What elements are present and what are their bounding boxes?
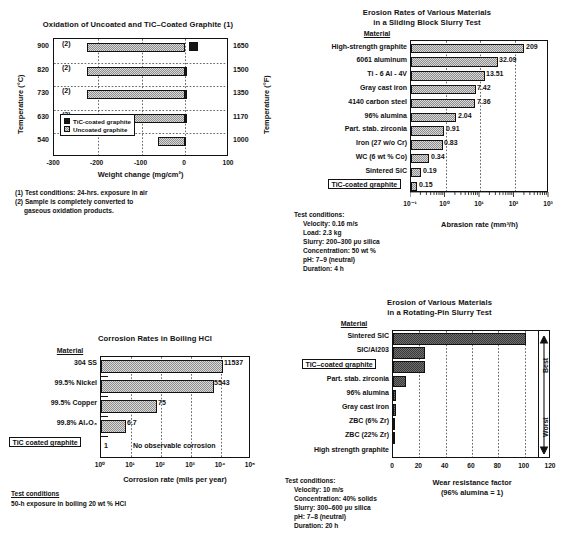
oxidation-footnote-2b: gaseous oxidation products. bbox=[24, 206, 114, 215]
sliding-category-label: 96% alumina bbox=[287, 112, 407, 119]
oxidation-marker-coated bbox=[184, 67, 187, 76]
rotating-category-label: ZBC (22% Zr) bbox=[282, 431, 389, 438]
rotating-bar bbox=[393, 376, 406, 388]
rotating-bar bbox=[393, 390, 396, 402]
sliding-condition-item: Slurry: 200–300 μυ silica bbox=[303, 237, 380, 246]
rotating-category-label: Gray cast iron bbox=[282, 403, 389, 410]
sliding-bar bbox=[411, 71, 485, 81]
rotating-plot-frame: Best Worst bbox=[392, 330, 550, 458]
sliding-condition-item: Load: 2.3 kg bbox=[303, 228, 341, 237]
corrosion-category-label-highlighted: TiC coated graphite bbox=[9, 437, 81, 447]
sliding-condition-item: Velocity: 0.16 m/s bbox=[303, 219, 358, 228]
legend-swatch-coated-icon bbox=[64, 118, 70, 124]
oxidation-title: Oxidation of Uncoated and TiC–Coated Gra… bbox=[8, 20, 268, 29]
oxidation-row-note: (2) bbox=[62, 40, 71, 47]
oxidation-footnote-1: (1) Test conditions: 24-hrs. exposure in… bbox=[15, 188, 148, 197]
legend-swatch-uncoated-icon bbox=[64, 126, 70, 132]
corrosion-bar bbox=[101, 420, 126, 433]
corrosion-xtick: 10³ bbox=[175, 461, 205, 468]
sliding-bar bbox=[411, 126, 444, 136]
corrosion-value-label: 5543 bbox=[214, 379, 230, 386]
corrosion-row-tick bbox=[101, 416, 108, 417]
legend-label-uncoated: Uncoated graphite bbox=[73, 126, 127, 133]
rotating-gridline-x bbox=[525, 331, 526, 457]
oxidation-xtick: -100 bbox=[126, 159, 156, 166]
sliding-condition-item: pH: 7–9 (neutral) bbox=[303, 255, 355, 264]
oxidation-gridline-y bbox=[54, 110, 227, 111]
corrosion-row-tick bbox=[101, 436, 108, 437]
oxidation-bar-uncoated bbox=[87, 90, 185, 99]
corrosion-xtick: 10⁴ bbox=[205, 461, 235, 468]
rotating-x-axis-label-line1: Wear resistance factor bbox=[402, 478, 542, 487]
oxidation-y-axis-right-label: Temperature (°F) bbox=[262, 75, 271, 134]
rotating-condition-item: Concentration: 40% solids bbox=[294, 494, 377, 503]
rotating-condition-item: Slurry: 300–600 μυ silica bbox=[294, 503, 371, 512]
corrosion-row-tick bbox=[101, 396, 108, 397]
oxidation-legend: TiC-coated graphite Uncoated graphite bbox=[60, 114, 135, 136]
rotating-column-header: Material bbox=[324, 320, 384, 327]
sliding-value-label: 7.42 bbox=[477, 84, 491, 91]
sliding-category-label: 4140 carbon steel bbox=[287, 98, 407, 105]
sliding-xtick: 10⁻¹ bbox=[395, 200, 425, 208]
sliding-bar bbox=[411, 154, 429, 164]
sliding-conditions-title: Test conditions: bbox=[294, 210, 344, 219]
oxidation-bar-uncoated bbox=[87, 67, 185, 76]
rotating-category-label: ZBC (6% Zr) bbox=[282, 417, 389, 424]
oxidation-marker-coated bbox=[189, 42, 198, 51]
sliding-category-label: WC (6 wt % Co) bbox=[287, 153, 407, 160]
rotating-category-label: 96% alumina bbox=[282, 389, 389, 396]
oxidation-xtick: -300 bbox=[38, 159, 68, 166]
corrosion-zero-value-label: 1 bbox=[104, 442, 108, 449]
chart-rotating-pin: Erosion of Various Materials in a Rotati… bbox=[282, 290, 563, 542]
rotating-category-label: SIC/Al203 bbox=[282, 346, 389, 353]
corrosion-category-label: 99.5% Copper bbox=[10, 399, 97, 406]
rotating-category-label: High strength graphite bbox=[282, 446, 389, 453]
corrosion-value-label: 11537 bbox=[224, 359, 243, 366]
oxidation-xtick: 0 bbox=[169, 159, 199, 166]
legend-entry-uncoated: Uncoated graphite bbox=[64, 125, 131, 133]
corrosion-condition-item: 50-h exposure in boiling 20 wt % HCl bbox=[11, 499, 126, 508]
rotating-gridline-x bbox=[498, 331, 499, 457]
sliding-bar bbox=[411, 44, 524, 54]
sliding-category-label: Part. stab. zirconia bbox=[287, 125, 407, 132]
corrosion-title: Corrosion Rates in Boiling HCl bbox=[60, 334, 250, 343]
corrosion-plot-frame: 1 No observable corrosion bbox=[100, 356, 250, 458]
rotating-bar bbox=[393, 432, 395, 444]
sliding-gridline-x bbox=[515, 41, 516, 191]
oxidation-ylabel-c: 730 bbox=[24, 89, 49, 96]
oxidation-y-axis-left-label: Temperature (°C) bbox=[16, 75, 25, 135]
sliding-category-label: Gray cast iron bbox=[287, 84, 407, 91]
rotating-title-line1: Erosion of Various Materials bbox=[332, 298, 547, 307]
corrosion-column-header: Material bbox=[40, 347, 100, 354]
sliding-bar bbox=[411, 168, 421, 178]
oxidation-footnote-2: (2) Sample is completely converted to bbox=[15, 197, 133, 206]
rotating-condition-item: Velocity: 10 m/s bbox=[294, 485, 343, 494]
oxidation-marker-coated bbox=[184, 137, 186, 146]
oxidation-gridline-y bbox=[54, 86, 227, 87]
sliding-value-label: 7.36 bbox=[477, 98, 491, 105]
rotating-x-axis-label-line2: (96% alumina = 1) bbox=[402, 488, 542, 497]
corrosion-value-label: 75 bbox=[158, 399, 166, 406]
corrosion-bar bbox=[101, 360, 223, 373]
oxidation-bar-uncoated bbox=[87, 43, 185, 52]
oxidation-ylabel-f: 1170 bbox=[233, 113, 258, 120]
rotating-bar bbox=[393, 333, 526, 345]
oxidation-marker-coated bbox=[184, 114, 187, 123]
sliding-title-line1: Erosion Rates of Various Materials bbox=[307, 8, 547, 17]
oxidation-bar-uncoated bbox=[158, 137, 185, 146]
oxidation-xtick: -200 bbox=[82, 159, 112, 166]
oxidation-ylabel-f: 1350 bbox=[233, 89, 258, 96]
corrosion-xtick: 10⁵ bbox=[235, 461, 265, 468]
rotating-bar bbox=[393, 347, 425, 359]
corrosion-xtick: 10¹ bbox=[115, 461, 145, 468]
corrosion-value-label: 6.7 bbox=[127, 419, 137, 426]
oxidation-row-note: (2) bbox=[62, 87, 71, 94]
corrosion-xtick: 10² bbox=[145, 461, 175, 468]
corrosion-bar bbox=[101, 380, 214, 393]
sliding-bar bbox=[411, 85, 476, 95]
scale-label-best: Best bbox=[542, 358, 549, 373]
oxidation-gridline-y bbox=[54, 63, 227, 64]
rotating-category-label-highlighted: TiC–coated graphite bbox=[302, 359, 376, 369]
legend-label-coated: TiC-coated graphite bbox=[73, 118, 131, 125]
rotating-category-label: Sintered SIC bbox=[282, 332, 389, 339]
